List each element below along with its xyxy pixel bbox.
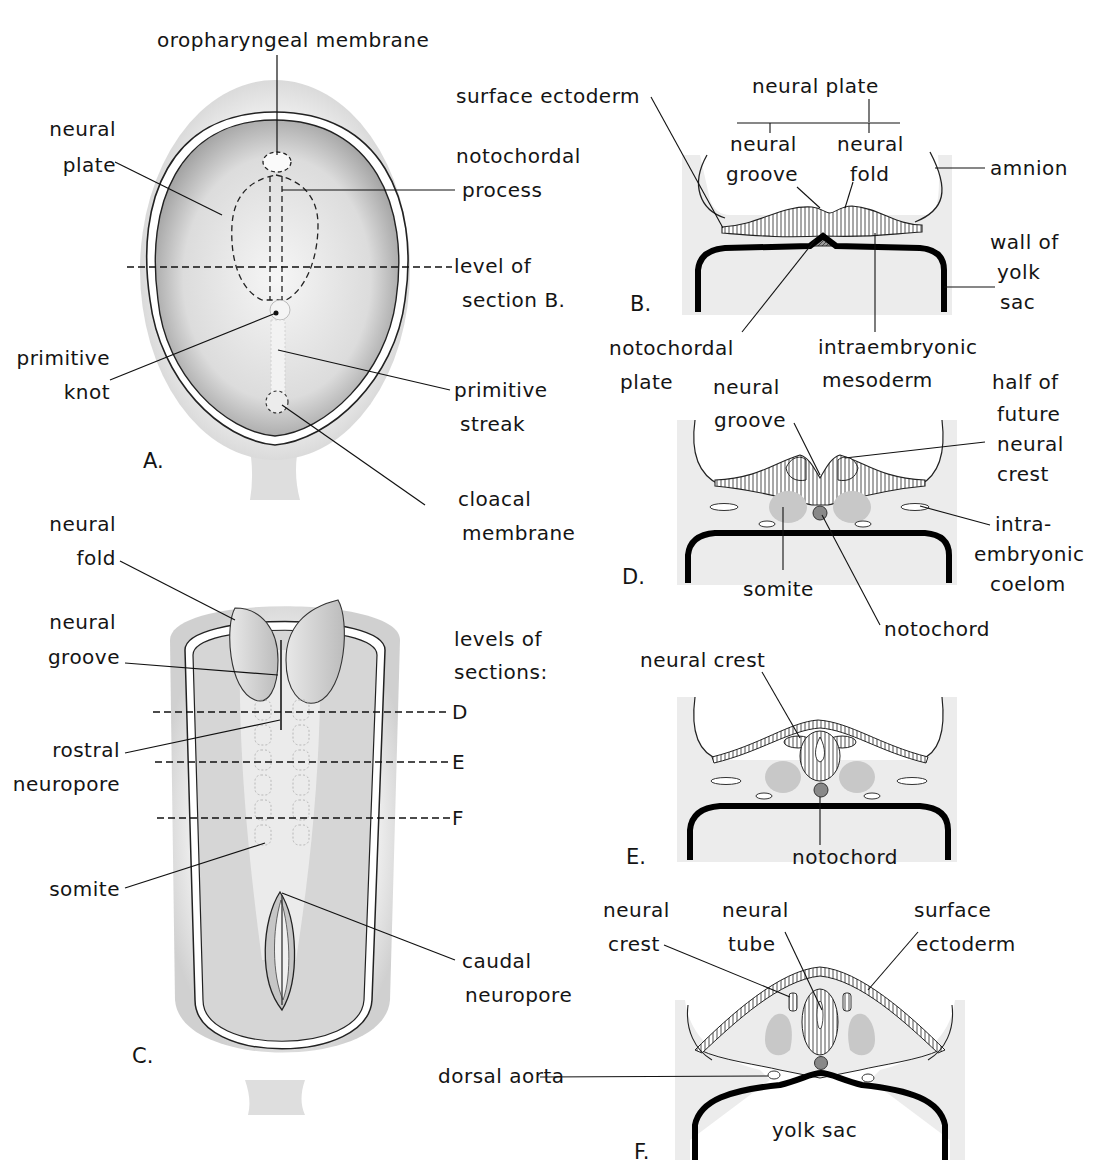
panel-letter-b: B. — [630, 292, 651, 316]
label-dorsal-aorta: dorsal aorta — [438, 1064, 565, 1088]
label-wall-of-yolk-sac-line2: yolk — [997, 260, 1040, 284]
label-primitive-streak-line2: streak — [460, 412, 525, 436]
label-neural-crest: neural crest — [640, 648, 765, 672]
label-intraembryonic-coelom-line2: embryonic — [974, 542, 1085, 566]
label-notochordal-plate-line1: notochordal — [609, 336, 734, 360]
label-primitive-knot-line2: knot — [10, 380, 110, 404]
label-neural-fold-line2: fold — [850, 162, 890, 186]
label-cloacal-membrane-line2: membrane — [462, 521, 575, 545]
label-somite: somite — [20, 877, 120, 901]
label-yolk-sac: yolk sac — [772, 1118, 857, 1142]
label-intraembryonic-coelom-line1: intra- — [995, 512, 1052, 536]
panel-letter-f: F. — [634, 1140, 649, 1164]
label-neural-crest-line2: crest — [608, 932, 660, 956]
panel-letter-d: D. — [622, 565, 645, 589]
panel-letter-a: A. — [143, 449, 164, 473]
label-intraembryonic-coelom-line3: coelom — [990, 572, 1066, 596]
label-neural-crest-line1: neural — [603, 898, 670, 922]
panel-f-drawing — [540, 932, 965, 1160]
label-level-d: D — [452, 700, 468, 724]
label-half-of-future-neural-crest-line3: neural — [997, 432, 1064, 456]
label-neural-tube-line2: tube — [728, 932, 776, 956]
label-half-of-future-neural-crest-line4: crest — [997, 462, 1049, 486]
label-rostral-neuropore-line2: neuropore — [0, 772, 120, 796]
label-neural-tube-line1: neural — [722, 898, 789, 922]
panel-a-drawing — [110, 55, 455, 505]
panel-d-drawing — [677, 420, 990, 625]
label-half-of-future-neural-crest-line2: future — [997, 402, 1060, 426]
label-neural-groove-line1: neural — [730, 132, 797, 156]
panel-letter-c: C. — [132, 1044, 153, 1068]
label-caudal-neuropore-line1: caudal — [462, 949, 531, 973]
label-rostral-neuropore-line1: rostral — [10, 738, 120, 762]
label-neural-groove-line2: groove — [726, 162, 798, 186]
label-neural-plate-line1: neural — [40, 117, 116, 141]
label-half-of-future-neural-crest-line1: half of — [992, 370, 1059, 394]
label-levels-of-sections-line1: levels of — [454, 627, 542, 651]
label-level-f: F — [452, 806, 464, 830]
label-neural-plate: neural plate — [752, 74, 879, 98]
label-notochord: notochord — [792, 845, 898, 869]
label-levels-of-sections-line2: sections: — [454, 660, 548, 684]
label-surface-ectoderm-line1: surface — [914, 898, 991, 922]
neurulation-figure: oropharyngeal membrane neural plate noto… — [0, 0, 1103, 1172]
label-neural-groove-line2: groove — [714, 408, 786, 432]
label-neural-plate-line2: plate — [40, 153, 116, 177]
panel-b-drawing — [651, 97, 995, 332]
panel-e-drawing — [677, 672, 957, 862]
label-oropharyngeal-membrane: oropharyngeal membrane — [157, 28, 429, 52]
label-notochordal-process-line1: notochordal — [456, 144, 581, 168]
label-wall-of-yolk-sac-line3: sac — [1000, 290, 1035, 314]
label-surface-ectoderm: surface ectoderm — [456, 84, 640, 108]
label-level-of-section-b-line2: section B. — [462, 288, 565, 312]
label-notochordal-process-line2: process — [462, 178, 542, 202]
label-cloacal-membrane-line1: cloacal — [458, 487, 531, 511]
label-neural-groove-line2: groove — [30, 645, 120, 669]
label-level-of-section-b-line1: level of — [454, 254, 531, 278]
label-neural-fold-line2: fold — [30, 546, 116, 570]
label-surface-ectoderm-line2: ectoderm — [916, 932, 1016, 956]
label-neural-groove-line1: neural — [713, 375, 780, 399]
label-caudal-neuropore-line2: neuropore — [465, 983, 572, 1007]
label-neural-groove-line1: neural — [30, 610, 116, 634]
label-neural-fold-line1: neural — [837, 132, 904, 156]
label-level-e: E — [452, 750, 465, 774]
label-intraembryonic-mesoderm-line1: intraembryonic — [818, 335, 978, 359]
label-intraembryonic-mesoderm-line2: mesoderm — [822, 368, 933, 392]
label-amnion: amnion — [990, 156, 1068, 180]
label-somite: somite — [743, 577, 814, 601]
panel-letter-e: E. — [626, 845, 646, 869]
label-neural-fold-line1: neural — [30, 512, 116, 536]
label-wall-of-yolk-sac-line1: wall of — [990, 230, 1059, 254]
label-notochordal-plate-line2: plate — [620, 370, 673, 394]
label-notochord: notochord — [884, 617, 990, 641]
label-primitive-streak-line1: primitive — [454, 378, 548, 402]
label-primitive-knot-line1: primitive — [10, 346, 110, 370]
panel-c-drawing — [120, 561, 455, 1115]
